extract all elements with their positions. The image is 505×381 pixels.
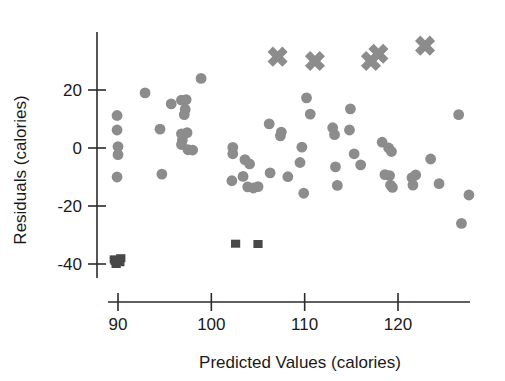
y-axis-tick-label: -20	[57, 197, 82, 216]
x-axis-tick-label: 100	[197, 315, 225, 334]
x-axis-title: Predicted Values (calories)	[199, 353, 401, 372]
data-point-circle	[305, 109, 316, 120]
data-point-circle	[453, 109, 464, 120]
data-point-circle	[227, 148, 238, 159]
data-point-circle	[355, 159, 366, 170]
data-point-circle	[265, 168, 276, 179]
data-point-circle	[408, 180, 419, 191]
data-point-circle	[332, 180, 343, 191]
data-point-circle	[264, 119, 275, 130]
y-axis: 200-20-40	[57, 32, 106, 278]
data-point-circle	[226, 175, 237, 186]
data-point-circle	[330, 161, 341, 172]
data-point-circle	[296, 142, 307, 153]
data-point-cross	[371, 46, 386, 61]
data-point-cross	[270, 49, 285, 64]
data-point-circle	[166, 99, 177, 110]
data-point-circle	[295, 157, 306, 168]
data-point-circle	[238, 171, 249, 182]
data-point-circle	[410, 170, 421, 181]
x-axis-tick-label: 90	[109, 315, 128, 334]
data-point-circle	[112, 110, 123, 121]
data-point-circle	[282, 171, 293, 182]
data-point-circle	[349, 148, 360, 159]
data-point-circle	[464, 190, 475, 201]
scatter-plot-canvas: 200-20-40 90100110120 Residuals (calorie…	[0, 0, 505, 381]
data-point-circle	[345, 103, 356, 114]
data-point-circle	[386, 146, 397, 157]
data-point-circle	[112, 125, 123, 136]
data-point-circle	[156, 169, 167, 180]
data-point-circle	[301, 92, 312, 103]
y-axis-tick-label: 0	[73, 139, 82, 158]
data-point-circle	[181, 94, 192, 105]
x-axis: 90100110120	[108, 293, 470, 334]
data-point-circle	[179, 109, 190, 120]
data-point-circle	[253, 181, 264, 192]
data-point-circle	[113, 149, 124, 160]
data-point-circle	[196, 73, 207, 84]
data-point-circle	[380, 169, 391, 180]
data-point-circle	[434, 178, 445, 189]
data-point-square	[231, 240, 240, 248]
data-point-circle	[425, 154, 436, 165]
data-point-circle	[298, 188, 309, 199]
residual-plot-figure: 200-20-40 90100110120 Residuals (calorie…	[0, 0, 505, 381]
data-point-circle	[456, 218, 467, 229]
y-axis-title: Residuals (calories)	[11, 95, 30, 244]
data-point-circle	[112, 172, 123, 183]
data-point-cross	[308, 54, 323, 69]
data-point-circle	[187, 145, 198, 156]
data-point-circle	[329, 129, 340, 140]
data-point-circle	[244, 159, 255, 170]
data-points-layer	[110, 38, 475, 268]
data-point-cross	[418, 38, 433, 53]
data-point-square	[111, 257, 120, 265]
data-point-circle	[140, 88, 151, 99]
data-point-circle	[387, 182, 398, 193]
x-axis-tick-label: 120	[384, 315, 412, 334]
y-axis-tick-label: 20	[63, 81, 82, 100]
y-axis-tick-label: -40	[57, 255, 82, 274]
data-point-circle	[155, 124, 166, 135]
data-point-circle	[344, 125, 355, 136]
x-axis-tick-label: 110	[291, 315, 318, 334]
data-point-square	[253, 240, 262, 248]
data-point-circle	[275, 130, 286, 141]
